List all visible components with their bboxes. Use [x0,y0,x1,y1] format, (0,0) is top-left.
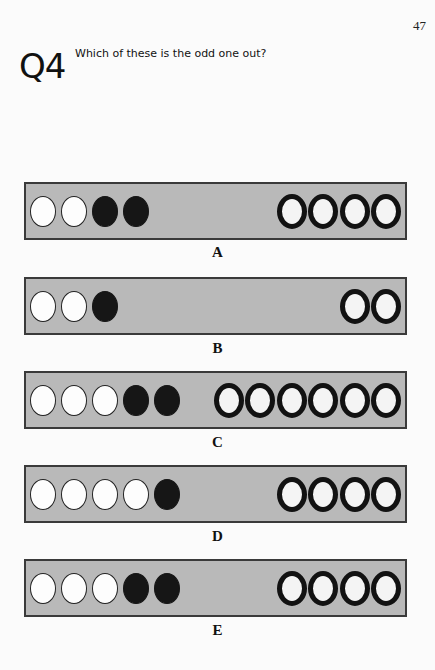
ring-circle-icon [277,383,307,418]
white-circle-icon [92,573,118,604]
white-circle-icon [61,573,87,604]
option-e-label[interactable]: E [0,622,435,639]
black-circle-icon [154,385,180,416]
ring-circle-icon [371,383,401,418]
white-circle-icon [61,479,87,510]
ring-circle-icon [371,477,401,512]
white-circle-icon [30,291,56,322]
ring-circle-icon [214,383,244,418]
black-circle-icon [154,479,180,510]
option-c-label[interactable]: C [0,434,435,451]
ring-circle-icon [308,194,338,229]
option-e-panel[interactable] [24,559,407,617]
ring-circle-icon [308,477,338,512]
white-circle-icon [30,573,56,604]
white-circle-icon [30,479,56,510]
option-d-panel[interactable] [24,465,407,523]
white-circle-icon [30,196,56,227]
question-text: Which of these is the odd one out? [75,47,266,60]
option-a-label[interactable]: A [0,244,435,261]
page-number: 47 [413,18,426,34]
white-circle-icon [92,385,118,416]
ring-circle-icon [277,194,307,229]
black-circle-icon [92,196,118,227]
ring-circle-icon [340,571,370,606]
white-circle-icon [61,291,87,322]
question-number: Q4 [19,46,65,86]
ring-circle-icon [371,194,401,229]
ring-circle-icon [308,383,338,418]
black-circle-icon [92,291,118,322]
black-circle-icon [123,573,149,604]
option-b-label[interactable]: B [0,340,435,357]
ring-circle-icon [340,289,370,324]
ring-circle-icon [340,194,370,229]
black-circle-icon [123,196,149,227]
ring-circle-icon [340,477,370,512]
option-c-panel[interactable] [24,371,407,429]
ring-circle-icon [277,571,307,606]
ring-circle-icon [245,383,275,418]
white-circle-icon [30,385,56,416]
ring-circle-icon [308,571,338,606]
option-d-label[interactable]: D [0,528,435,545]
ring-circle-icon [340,383,370,418]
ring-circle-icon [277,477,307,512]
white-circle-icon [123,479,149,510]
option-a-panel[interactable] [24,182,407,240]
white-circle-icon [92,479,118,510]
ring-circle-icon [371,571,401,606]
black-circle-icon [123,385,149,416]
black-circle-icon [154,573,180,604]
white-circle-icon [61,196,87,227]
ring-circle-icon [371,289,401,324]
option-b-panel[interactable] [24,277,407,335]
white-circle-icon [61,385,87,416]
